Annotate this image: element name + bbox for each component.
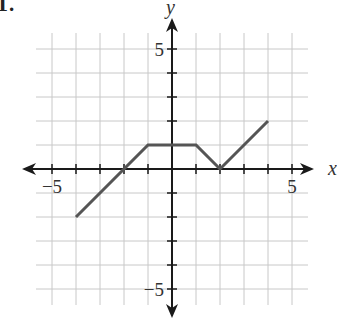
coordinate-plane: −555−5xy xyxy=(0,0,337,321)
x-tick-label: −5 xyxy=(42,176,62,197)
y-axis-label: y xyxy=(164,0,175,19)
x-tick-label: 5 xyxy=(287,176,297,197)
y-tick-label: −5 xyxy=(144,279,164,300)
y-tick-label: 5 xyxy=(155,39,165,60)
x-axis-label: x xyxy=(327,157,337,179)
